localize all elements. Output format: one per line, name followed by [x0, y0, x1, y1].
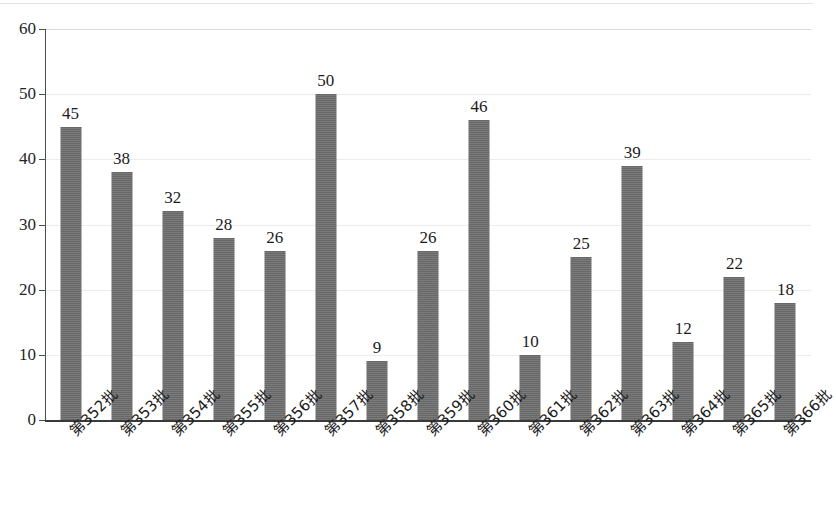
x-axis-label-slot: 第363批 [607, 424, 658, 510]
bar-value-label: 10 [522, 333, 539, 350]
bar-group: 39 [607, 29, 658, 420]
bar-value-label: 9 [373, 339, 382, 356]
bar-value-label: 39 [624, 144, 641, 161]
y-axis-tick-label: 0 [2, 411, 36, 428]
x-axis-label-slot: 第358批 [351, 424, 402, 510]
x-axis-label-slot: 第362批 [556, 424, 607, 510]
bar [622, 166, 643, 420]
y-axis-tick-label: 40 [2, 150, 36, 167]
x-axis-label-slot: 第355批 [198, 424, 249, 510]
x-axis-label-slot: 第356批 [249, 424, 300, 510]
x-axis-label-slot: 第353批 [96, 424, 147, 510]
bar [673, 342, 694, 420]
bar [315, 94, 336, 420]
x-axis-label-slot: 第357批 [300, 424, 351, 510]
x-axis-label-slot: 第366批 [760, 424, 811, 510]
bar-group: 28 [198, 29, 249, 420]
y-axis-tick-label: 20 [2, 281, 36, 298]
x-axis-label-slot: 第360批 [454, 424, 505, 510]
bar-value-label: 32 [164, 189, 181, 206]
y-axis-tick-label: 60 [2, 20, 36, 37]
bar-group: 10 [505, 29, 556, 420]
bar-value-label: 12 [675, 320, 692, 337]
bar-value-label: 18 [777, 281, 794, 298]
bar [111, 172, 132, 420]
bars-layer: 45383228265092646102539122218 [45, 29, 811, 420]
bar-group: 50 [300, 29, 351, 420]
bar-group: 22 [709, 29, 760, 420]
x-axis-label-slot: 第365批 [709, 424, 760, 510]
bar-group: 45 [45, 29, 96, 420]
x-axis-category-labels: 第352批第353批第354批第355批第356批第357批第358批第359批… [45, 424, 811, 510]
y-axis-tick-labels: 0102030405060 [0, 0, 36, 510]
bar-value-label: 50 [317, 72, 334, 89]
bar-group: 32 [147, 29, 198, 420]
bar-group: 25 [556, 29, 607, 420]
x-axis-label-slot: 第364批 [658, 424, 709, 510]
x-axis-label-slot: 第354批 [147, 424, 198, 510]
bar-group: 38 [96, 29, 147, 420]
bar-value-label: 26 [266, 229, 283, 246]
y-axis-tick-label: 30 [2, 216, 36, 233]
page-top-rule [0, 3, 813, 4]
bar-group: 46 [454, 29, 505, 420]
y-axis-tick-label: 50 [2, 85, 36, 102]
bar-value-label: 25 [573, 235, 590, 252]
bar-value-label: 26 [419, 229, 436, 246]
bar-group: 26 [249, 29, 300, 420]
bar-group: 9 [351, 29, 402, 420]
x-axis-label-slot: 第359批 [402, 424, 453, 510]
bar-group: 18 [760, 29, 811, 420]
y-axis-tick-label: 10 [2, 346, 36, 363]
bar-value-label: 28 [215, 216, 232, 233]
x-axis-label-slot: 第361批 [505, 424, 556, 510]
bar [60, 127, 81, 420]
bar [162, 211, 183, 420]
bar-value-label: 46 [471, 98, 488, 115]
bar-value-label: 38 [113, 150, 130, 167]
bar [469, 120, 490, 420]
bar [520, 355, 541, 420]
bar-value-label: 45 [62, 105, 79, 122]
x-axis-label-slot: 第352批 [45, 424, 96, 510]
bar-value-label: 22 [726, 255, 743, 272]
bar-group: 12 [658, 29, 709, 420]
bar-group: 26 [402, 29, 453, 420]
